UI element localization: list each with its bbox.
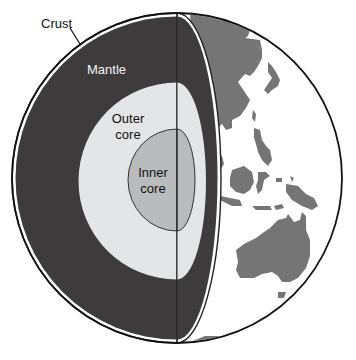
earth-globe-graphic [0,0,356,360]
inner-core-label-line2: core [135,181,171,197]
inner-core-label-line1: Inner [135,165,171,181]
crust-label: Crust [41,16,72,32]
earth-cutaway-diagram: Crust Mantle Outer core Inner core [0,0,356,360]
outer-core-label-line1: Outer [110,111,146,127]
mantle-label: Mantle [87,62,126,78]
inner-core-label: Inner core [135,165,171,197]
outer-core-label-line2: core [110,127,146,143]
outer-core-label: Outer core [110,111,146,143]
